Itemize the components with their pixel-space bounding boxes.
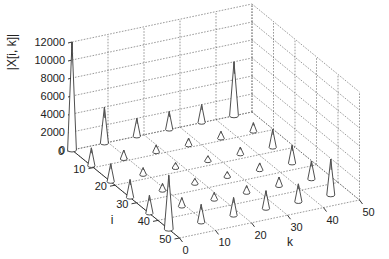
x-axis-label: k (287, 235, 294, 249)
stem-shade (189, 138, 190, 140)
stem-shade (227, 172, 228, 174)
stem-shade (91, 148, 92, 153)
floor-gridline-i (137, 165, 317, 203)
i-tick (110, 185, 115, 186)
stem-shade (247, 186, 248, 188)
back-wall-gridline-z (72, 94, 252, 132)
y-axis-label: i (111, 213, 114, 227)
z-tick (68, 42, 72, 43)
stem-shade (273, 129, 274, 134)
side-wall-gridline-z (252, 94, 360, 182)
side-wall-gridline-z (252, 112, 360, 200)
stem-shade (202, 105, 203, 110)
stem-shade (266, 191, 267, 196)
stem-shade (176, 163, 177, 165)
i-tick-label: 20 (95, 180, 107, 192)
stem-shade (156, 145, 157, 147)
k-tick (288, 215, 291, 219)
stem-shade (292, 145, 293, 150)
stem-shade (169, 175, 170, 187)
back-wall-gridline-z (72, 112, 252, 150)
k-tick (216, 230, 219, 234)
stem-shade (195, 178, 196, 180)
floor-gridline-k (216, 120, 324, 208)
stem-shade (201, 204, 202, 209)
stem-shade (130, 180, 131, 185)
i-tick (153, 220, 158, 221)
stem-shade (182, 198, 183, 201)
side-wall-gridline-z (252, 22, 360, 110)
back-wall-gridline-z (72, 40, 252, 78)
k-tick-label: 30 (291, 221, 303, 233)
stem-shade (214, 192, 215, 194)
stem-shade (208, 156, 209, 158)
back-wall-gridline-z (72, 4, 252, 42)
side-wall-gridline-z (252, 58, 360, 146)
k-tick (252, 223, 255, 227)
stem-shade (143, 168, 144, 170)
k-tick (180, 238, 183, 242)
k-tick-label: 10 (219, 236, 231, 248)
stem-shade (298, 184, 299, 189)
stem-shade (311, 161, 312, 166)
stem-shade (234, 198, 235, 203)
z-tick-label: 12000 (34, 36, 65, 48)
side-wall-gridline-z (252, 76, 360, 164)
i-tick-label: 0 (58, 145, 64, 157)
stem-shade (331, 159, 332, 170)
stem-shade (279, 177, 280, 180)
z-tick-label: 8000 (41, 72, 65, 84)
z-tick-label: 6000 (41, 90, 65, 102)
stem-shade (149, 195, 150, 200)
plot-area: 0200040006000800010000120000102030405001… (0, 0, 389, 259)
stem-shade (124, 150, 125, 153)
k-tick (324, 208, 327, 212)
back-wall-gridline-z (72, 76, 252, 114)
k-tick-label: 20 (255, 229, 267, 241)
k-tick-label: 0 (183, 244, 189, 256)
stem-shade (72, 42, 73, 54)
back-wall-gridline-z (72, 22, 252, 60)
floor-gridline-i (115, 147, 295, 185)
k-tick-label: 50 (363, 206, 375, 218)
i-tick-label: 10 (73, 163, 85, 175)
stem-shade (169, 111, 170, 116)
stem-shade (234, 62, 235, 74)
floor-gridline-i (94, 130, 274, 168)
stem-shade (111, 164, 112, 169)
i-tick-label: 30 (116, 198, 128, 210)
stem-shade (253, 123, 254, 126)
back-wall-gridline-z (72, 58, 252, 96)
z-tick-label: 4000 (41, 108, 65, 120)
stem-shade (162, 183, 163, 185)
i-tick (132, 203, 137, 204)
side-wall-gridline-z (252, 4, 360, 92)
stem-shade (240, 147, 241, 149)
z-tick-label: 10000 (34, 54, 65, 66)
i-tick (175, 238, 180, 239)
k-tick (360, 200, 363, 204)
i-tick-label: 40 (138, 215, 150, 227)
k-tick-label: 40 (327, 214, 339, 226)
stem-shade (104, 107, 105, 118)
z-axis-label: |X[i, k]| (5, 34, 19, 70)
i-tick-label: 50 (159, 233, 171, 245)
side-wall-gridline-z (252, 40, 360, 128)
z-tick-label: 2000 (41, 126, 65, 138)
stem-shade (260, 163, 261, 165)
stem-shade (137, 118, 138, 123)
stem-shade (221, 131, 222, 133)
chart-3d-stem: 0200040006000800010000120000102030405001… (0, 0, 389, 259)
